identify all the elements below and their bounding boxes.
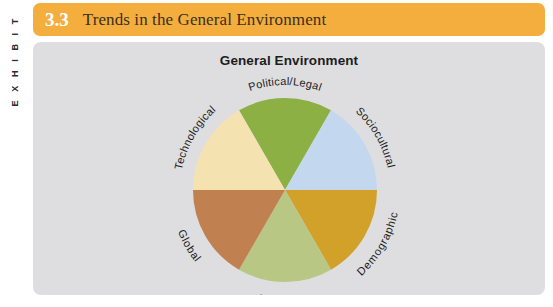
figure-panel: General Environment Political/LegalSocio… xyxy=(33,42,545,295)
page-title: Trends in the General Environment xyxy=(83,10,326,30)
exhibit-rail: E X H I B I T xyxy=(0,0,30,160)
exhibit-header-bar: 3.3 Trends in the General Environment xyxy=(33,3,545,36)
pie-label-economic: Economic xyxy=(258,292,313,295)
pie-slice-group xyxy=(193,98,377,282)
exhibit-rail-label: E X H I B I T xyxy=(10,16,20,107)
pie-label-political-legal: Political/Legal xyxy=(247,75,324,93)
pie-chart-svg: Political/LegalSocioculturalDemographicE… xyxy=(33,42,545,295)
exhibit-number: 3.3 xyxy=(45,9,69,31)
pie-label-global: Global xyxy=(176,227,204,263)
pie-chart: Political/LegalSocioculturalDemographicE… xyxy=(33,42,545,295)
